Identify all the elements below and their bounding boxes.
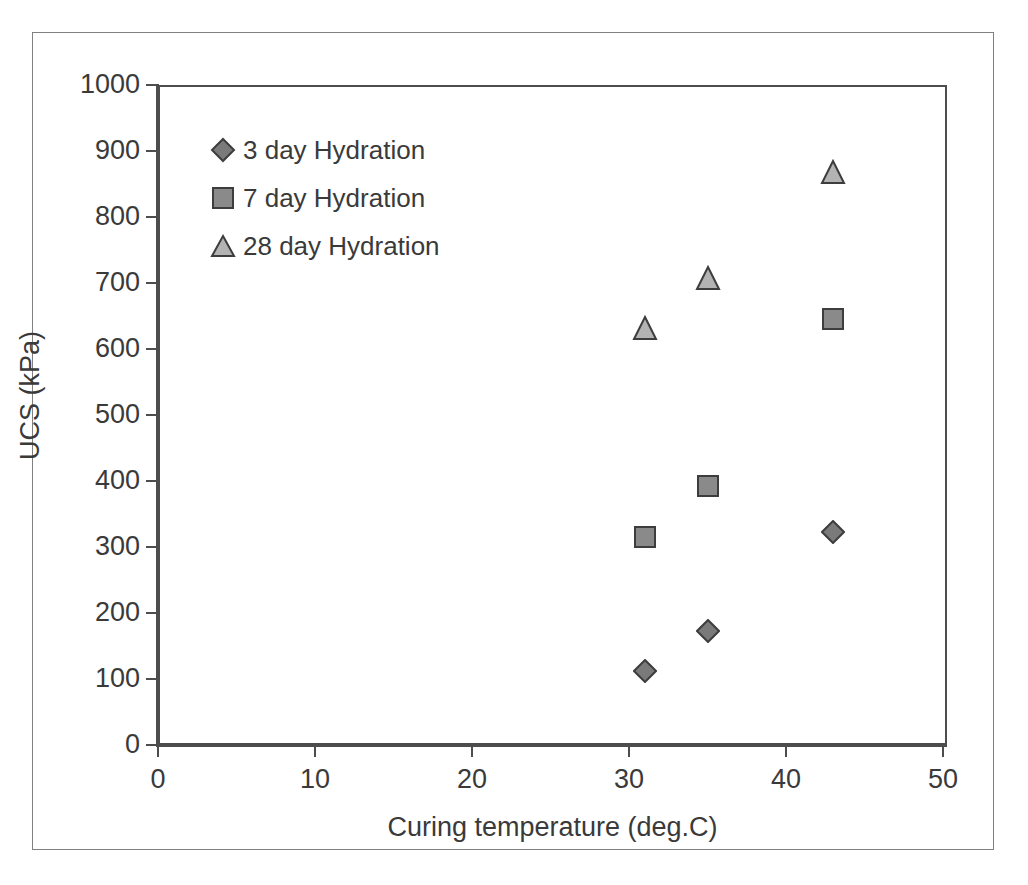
x-tick-label: 0 bbox=[113, 766, 203, 793]
x-tick bbox=[314, 746, 316, 757]
y-axis-title: UCS (kPa) bbox=[15, 236, 46, 556]
y-tick-label: 300 bbox=[54, 533, 140, 560]
y-tick-label: 0 bbox=[54, 731, 140, 758]
y-tick-label: 800 bbox=[54, 203, 140, 230]
chart-legend: 3 day Hydration 7 day Hydration 28 day H… bbox=[210, 126, 540, 270]
x-tick-label: 20 bbox=[427, 766, 517, 793]
y-tick bbox=[146, 282, 157, 284]
data-point bbox=[633, 525, 657, 549]
y-tick-label: 900 bbox=[54, 137, 140, 164]
legend-label-3day: 3 day Hydration bbox=[243, 135, 425, 166]
x-axis-title: Curing temperature (deg.C) bbox=[158, 812, 947, 843]
y-tick-label: 500 bbox=[54, 401, 140, 428]
x-tick bbox=[942, 746, 944, 757]
y-tick bbox=[146, 84, 157, 86]
x-tick-label: 40 bbox=[741, 766, 831, 793]
y-tick bbox=[146, 348, 157, 350]
legend-item-7day[interactable]: 7 day Hydration bbox=[210, 174, 540, 222]
data-point bbox=[821, 520, 845, 544]
y-tick bbox=[146, 546, 157, 548]
legend-label-28day: 28 day Hydration bbox=[243, 231, 440, 262]
data-point bbox=[696, 619, 720, 643]
y-tick-label: 400 bbox=[54, 467, 140, 494]
y-tick bbox=[146, 150, 157, 152]
data-point bbox=[696, 474, 720, 498]
y-tick bbox=[146, 744, 157, 746]
legend-label-7day: 7 day Hydration bbox=[243, 183, 425, 214]
diamond-marker-icon bbox=[210, 137, 236, 163]
y-tick-label: 100 bbox=[54, 665, 140, 692]
legend-item-3day[interactable]: 3 day Hydration bbox=[210, 126, 540, 174]
x-tick-label: 10 bbox=[270, 766, 360, 793]
chart-figure: 01002003004005006007008009001000 0102030… bbox=[0, 0, 1028, 885]
x-tick-label: 30 bbox=[584, 766, 674, 793]
x-tick bbox=[157, 746, 159, 757]
x-tick bbox=[785, 746, 787, 757]
x-tick bbox=[628, 746, 630, 757]
triangle-marker-icon bbox=[210, 233, 236, 259]
data-point bbox=[633, 659, 657, 683]
y-tick-label: 200 bbox=[54, 599, 140, 626]
data-point bbox=[820, 159, 846, 185]
legend-item-28day[interactable]: 28 day Hydration bbox=[210, 222, 540, 270]
square-marker-icon bbox=[210, 185, 236, 211]
y-tick-label: 600 bbox=[54, 335, 140, 362]
y-tick-label: 700 bbox=[54, 269, 140, 296]
data-point bbox=[632, 315, 658, 341]
y-tick-label: 1000 bbox=[54, 71, 140, 98]
y-tick bbox=[146, 414, 157, 416]
y-tick bbox=[146, 612, 157, 614]
x-axis-line bbox=[156, 744, 947, 747]
data-point bbox=[695, 265, 721, 291]
y-tick bbox=[146, 480, 157, 482]
y-tick bbox=[146, 216, 157, 218]
x-tick bbox=[471, 746, 473, 757]
data-point bbox=[821, 307, 845, 331]
x-tick-label: 50 bbox=[898, 766, 988, 793]
y-tick bbox=[146, 678, 157, 680]
